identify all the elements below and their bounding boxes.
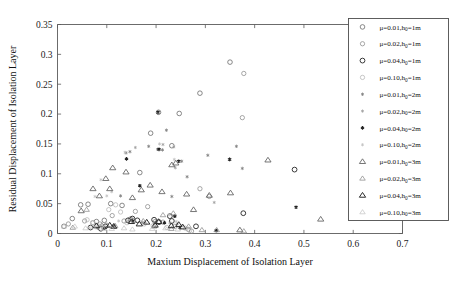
x-tick-label: 0.3 [199, 239, 211, 249]
data-point [159, 189, 165, 194]
data-point [206, 154, 209, 157]
data-series [61, 60, 324, 233]
y-tick-label: 0.25 [36, 80, 53, 90]
x-tick-label: 0.5 [298, 239, 310, 249]
y-tick-label: 0.05 [36, 199, 53, 209]
data-point [265, 157, 271, 162]
y-tick-label: 0 [48, 229, 53, 239]
data-point [198, 91, 203, 96]
data-point [241, 167, 244, 170]
data-point [102, 218, 107, 223]
legend: μ=0.01,h0=1mμ=0.02,h0=1mμ=0.04,h0=1mμ=0.… [349, 19, 449, 221]
data-point [242, 71, 246, 75]
data-point [194, 224, 199, 229]
data-point [125, 157, 128, 161]
data-point [119, 194, 122, 197]
data-point [184, 191, 190, 196]
x-tick-label: 0.1 [101, 239, 113, 249]
data-point [177, 111, 182, 116]
data-point [78, 208, 84, 213]
y-axis-title: Residual Displacement of Isolation Layer [7, 45, 18, 212]
data-point [128, 150, 131, 153]
y-tick-label: 0.3 [41, 50, 53, 60]
data-point [123, 169, 129, 174]
data-point [96, 193, 102, 198]
data-point [180, 160, 183, 163]
data-point [292, 167, 297, 172]
data-point [240, 116, 244, 120]
x-tick-label: 0 [55, 239, 60, 249]
legend-label: μ=0.01,h0=1m [380, 24, 422, 33]
scatter-plot: 00.10.20.30.40.50.60.700.050.10.150.20.2… [0, 0, 453, 287]
data-point [160, 213, 166, 217]
data-point [99, 178, 102, 181]
legend-label: μ=0.02,h0=1m [380, 40, 422, 49]
legend-label: μ=0.04,h0=3m [380, 192, 422, 201]
y-tick-label: 0.2 [41, 109, 53, 119]
data-point [129, 195, 135, 200]
data-point [70, 216, 75, 221]
y-tick-label: 0.1 [41, 169, 53, 179]
data-point [78, 203, 83, 208]
data-point [186, 175, 189, 178]
series-0 [62, 60, 233, 229]
data-point [213, 201, 216, 204]
data-point [206, 193, 212, 198]
legend-label: μ=0.04,h0=1m [380, 57, 422, 66]
data-point [161, 148, 164, 151]
figure-container: 00.10.20.30.40.50.60.700.050.10.150.20.2… [0, 0, 453, 287]
y-tick-label: 0.15 [36, 139, 53, 149]
data-point [83, 226, 88, 230]
series-1 [66, 71, 246, 233]
data-point [84, 207, 90, 211]
data-point [110, 213, 114, 217]
data-point [107, 207, 111, 211]
data-point [138, 187, 144, 192]
data-point [133, 209, 137, 213]
legend-label: μ=0.04,h0=2m [380, 125, 422, 134]
data-point [120, 203, 125, 208]
data-point [105, 194, 108, 197]
data-point [171, 211, 177, 215]
data-point [110, 165, 116, 170]
legend-label: μ=0.02,h0=3m [380, 175, 422, 184]
y-tick-label: 0.35 [36, 20, 53, 30]
x-tick-label: 0.6 [347, 239, 359, 249]
series-8 [78, 157, 324, 232]
data-point [228, 60, 233, 65]
data-point [66, 222, 70, 226]
data-point [147, 182, 153, 187]
data-point [118, 210, 122, 214]
legend-label: μ=0.10,h0=1m [380, 74, 422, 83]
series-7 [88, 142, 183, 229]
legend-label: μ=0.10,h0=2m [380, 141, 422, 150]
data-point [130, 227, 135, 231]
legend-label: μ=0.02,h0=2m [380, 108, 422, 117]
data-point [86, 202, 91, 207]
legend-label: μ=0.01,h0=3m [380, 158, 422, 167]
data-point [227, 190, 233, 195]
data-point [190, 207, 196, 212]
x-tick-label: 0.7 [397, 239, 409, 249]
data-point [170, 195, 173, 198]
x-tick-label: 0.2 [150, 239, 162, 249]
series-6 [103, 110, 297, 232]
data-point [121, 226, 126, 230]
data-point [107, 186, 113, 191]
series-11 [61, 224, 180, 231]
legend-label: μ=0.10,h0=3m [380, 209, 422, 218]
data-point [199, 227, 205, 231]
data-point [117, 219, 120, 222]
data-point [198, 187, 202, 191]
x-axis-title: Maxium Displacement of Isolation Layer [147, 256, 313, 267]
data-point [162, 143, 165, 146]
data-point [165, 128, 168, 131]
data-point [294, 205, 297, 209]
data-point [168, 223, 174, 228]
data-point [103, 176, 109, 181]
data-point [146, 204, 150, 208]
legend-label: μ=0.01,h0=2m [380, 91, 422, 100]
data-point [241, 211, 246, 216]
data-point [134, 146, 137, 149]
data-point [158, 142, 161, 145]
